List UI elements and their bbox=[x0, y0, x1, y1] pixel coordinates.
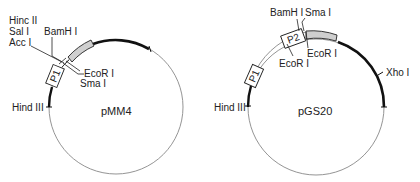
pGS20-p1-box: P1 bbox=[244, 64, 263, 87]
pGS20-label-smai: Sma I bbox=[305, 7, 331, 18]
pGS20-label-xhoi: Xho I bbox=[386, 67, 409, 78]
pMM4-label-bamhi: BamH I bbox=[44, 26, 77, 37]
pMM4-label-hincii: Hinc II bbox=[9, 15, 37, 26]
pMM4-label-smai: Sma I bbox=[80, 78, 106, 89]
pMM4-acc-leader bbox=[31, 46, 62, 62]
pMM4-label-hindiii: Hind III bbox=[12, 102, 44, 113]
pMM4-p1-box: P1 bbox=[46, 64, 65, 87]
plasmid-pGS20: P1 P2 BamH I Sma I EcoR I EcoR I Xho I H… bbox=[214, 7, 409, 175]
pMM4-thick-left bbox=[49, 87, 52, 107]
pGS20-sma-leader bbox=[302, 18, 305, 31]
pGS20-bamh-leader bbox=[297, 19, 299, 31]
pGS20-thick-left bbox=[248, 86, 251, 107]
pMM4-thick-top bbox=[93, 40, 149, 49]
pGS20-label-bamhi: BamH I bbox=[270, 7, 303, 18]
plasmid-diagram: P1 Hinc II Sal I Acc I BamH I EcoR I Sma… bbox=[0, 0, 420, 182]
pMM4-sma-leader bbox=[66, 61, 80, 71]
pMM4-insert bbox=[68, 40, 94, 62]
pMM4-ecor-leader bbox=[63, 63, 84, 74]
pMM4-name: pMM4 bbox=[101, 105, 132, 117]
pGS20-label-ecori-inner: EcoR I bbox=[279, 58, 309, 69]
pGS20-p2-box: P2 bbox=[281, 29, 306, 49]
pGS20-name: pGS20 bbox=[298, 105, 332, 117]
pMM4-bamh-leader bbox=[52, 37, 64, 63]
pGS20-thick-right bbox=[338, 42, 384, 107]
pGS20-label-hindiii: Hind III bbox=[214, 102, 246, 113]
pMM4-label-acci: Acc I bbox=[9, 37, 31, 48]
pMM4-label-sali: Sal I bbox=[9, 26, 29, 37]
pGS20-label-ecori-outer: EcoR I bbox=[307, 48, 337, 59]
plasmid-pMM4: P1 Hinc II Sal I Acc I BamH I EcoR I Sma… bbox=[9, 15, 183, 174]
pGS20-tick-xho bbox=[378, 72, 383, 75]
